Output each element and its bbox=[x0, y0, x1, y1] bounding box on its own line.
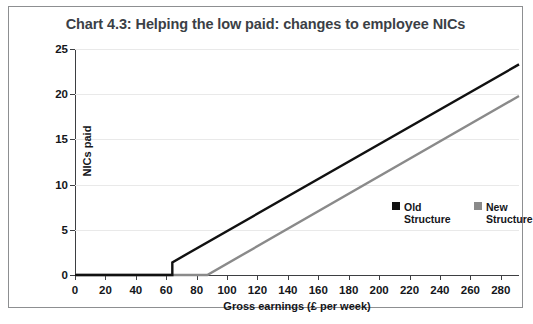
x-tick-mark bbox=[440, 275, 441, 280]
chart-legend: Old StructureNew Structure bbox=[392, 201, 533, 225]
x-axis-label: Gross earnings (£ per week) bbox=[75, 300, 519, 312]
y-tick-label: 0 bbox=[62, 269, 68, 281]
x-tick-mark bbox=[227, 275, 228, 280]
chart-title: Chart 4.3: Helping the low paid: changes… bbox=[9, 16, 522, 32]
x-tick-label: 40 bbox=[129, 284, 142, 296]
x-tick-mark bbox=[501, 275, 502, 280]
x-tick-label: 240 bbox=[430, 284, 449, 296]
legend-label: New Structure bbox=[486, 201, 533, 225]
x-tick-label: 140 bbox=[278, 284, 297, 296]
x-tick-label: 280 bbox=[491, 284, 510, 296]
x-tick-mark bbox=[288, 275, 289, 280]
y-tick-label: 10 bbox=[55, 179, 68, 191]
x-tick-mark bbox=[318, 275, 319, 280]
series-line bbox=[75, 96, 519, 275]
legend-item: Old Structure bbox=[392, 201, 458, 225]
x-tick-label: 0 bbox=[72, 284, 78, 296]
x-tick-mark bbox=[470, 275, 471, 280]
legend-label: Old Structure bbox=[404, 201, 458, 225]
y-tick-label: 5 bbox=[62, 224, 68, 236]
y-tick-label: 25 bbox=[55, 43, 68, 55]
x-tick-mark bbox=[410, 275, 411, 280]
x-tick-label: 80 bbox=[190, 284, 203, 296]
x-tick-mark bbox=[257, 275, 258, 280]
x-tick-label: 20 bbox=[99, 284, 112, 296]
legend-swatch-icon bbox=[474, 202, 482, 210]
x-tick-label: 100 bbox=[217, 284, 236, 296]
legend-swatch-icon bbox=[392, 202, 400, 210]
x-tick-label: 160 bbox=[309, 284, 328, 296]
series-line bbox=[75, 64, 519, 275]
x-tick-label: 200 bbox=[370, 284, 389, 296]
x-tick-label: 60 bbox=[160, 284, 173, 296]
x-tick-label: 180 bbox=[339, 284, 358, 296]
x-tick-mark bbox=[349, 275, 350, 280]
chart-frame: Chart 4.3: Helping the low paid: changes… bbox=[8, 6, 523, 308]
y-tick-label: 20 bbox=[55, 88, 68, 100]
plot-area: 0510152025 02040608010012014016018020022… bbox=[75, 49, 519, 275]
legend-item: New Structure bbox=[474, 201, 533, 225]
x-tick-label: 120 bbox=[248, 284, 267, 296]
y-tick-label: 15 bbox=[55, 133, 68, 145]
y-axis-label: NICs paid bbox=[81, 91, 93, 211]
x-tick-label: 220 bbox=[400, 284, 419, 296]
series-lines bbox=[75, 49, 519, 275]
x-tick-mark bbox=[379, 275, 380, 280]
x-tick-label: 260 bbox=[461, 284, 480, 296]
